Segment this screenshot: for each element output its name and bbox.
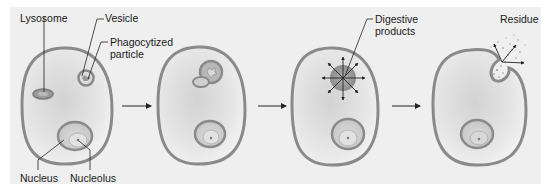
label-residue: Residue (500, 13, 539, 25)
label-lysosome: Lysosome (20, 12, 67, 24)
label-digestive-line1: Digestive (375, 13, 418, 25)
nucleolus (77, 139, 80, 142)
label-nucleolus: Nucleolus (70, 172, 116, 184)
label-phagocytized-line1: Phagocytized (110, 36, 173, 48)
label-digestive-line2: products (375, 25, 415, 37)
label-vesicle: Vesicle (105, 12, 138, 24)
label-nucleus: Nucleus (20, 172, 58, 184)
cell-stage-2 (158, 47, 245, 164)
label-phagocytized-line2: particle (110, 48, 144, 60)
cell-stage-1 (22, 16, 112, 170)
cell-stage-4 (433, 34, 526, 165)
cell-stage-3 (292, 19, 378, 165)
phagocytosis-diagram (0, 0, 551, 191)
